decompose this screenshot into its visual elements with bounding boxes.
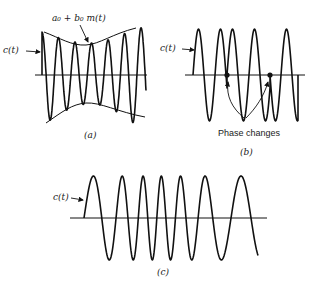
arrow-icon — [182, 49, 194, 50]
caption-a: (a) — [84, 130, 97, 140]
caption-b: (b) — [240, 147, 253, 157]
phase-change-dot — [224, 72, 229, 77]
envelope-label: a₀ + b₀ m(t) — [52, 13, 106, 23]
signal-label-b: c(t) — [160, 43, 176, 53]
panel-b: c(t) Phase changes (b) — [160, 29, 305, 157]
caption-c: (c) — [157, 267, 170, 277]
modulation-diagram: c(t) a₀ + b₀ m(t) (a) c(t) Phase changes… — [0, 0, 314, 290]
phase-changes-label: Phase changes — [218, 128, 281, 138]
arrow-icon — [26, 51, 40, 52]
signal-label-a: c(t) — [3, 45, 19, 55]
panel-c: c(t) (c) — [53, 176, 267, 277]
panel-a: c(t) a₀ + b₀ m(t) (a) — [3, 13, 147, 140]
arrow-icon — [246, 82, 268, 118]
arrow-icon — [80, 25, 88, 42]
signal-label-c: c(t) — [53, 192, 69, 202]
phase-change-dot — [267, 72, 272, 77]
arrow-icon — [71, 198, 83, 200]
